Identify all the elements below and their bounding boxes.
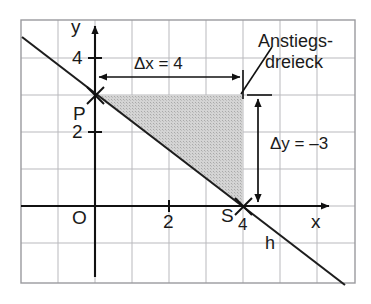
coordinate-figure: y x 4 2 2 4 P S O h Δx = 4 Δy = –3 Ansti… bbox=[0, 0, 371, 304]
annotation-anstiegsdreieck-line2: dreieck bbox=[265, 52, 323, 72]
y-tick-label-4: 4 bbox=[72, 47, 83, 68]
line-label-h: h bbox=[265, 233, 275, 253]
point-label-P: P bbox=[73, 103, 86, 124]
delta-x-label: Δx = 4 bbox=[134, 54, 183, 73]
y-axis-label: y bbox=[71, 16, 81, 37]
annotation-anstiegsdreieck-line1: Anstiegs- bbox=[258, 31, 333, 51]
point-label-S: S bbox=[221, 205, 234, 226]
delta-y-label: Δy = –3 bbox=[270, 134, 328, 153]
origin-label: O bbox=[72, 207, 87, 228]
x-tick-label-4: 4 bbox=[238, 215, 247, 234]
x-tick-label-2: 2 bbox=[163, 211, 174, 232]
x-axis-label: x bbox=[311, 211, 321, 232]
